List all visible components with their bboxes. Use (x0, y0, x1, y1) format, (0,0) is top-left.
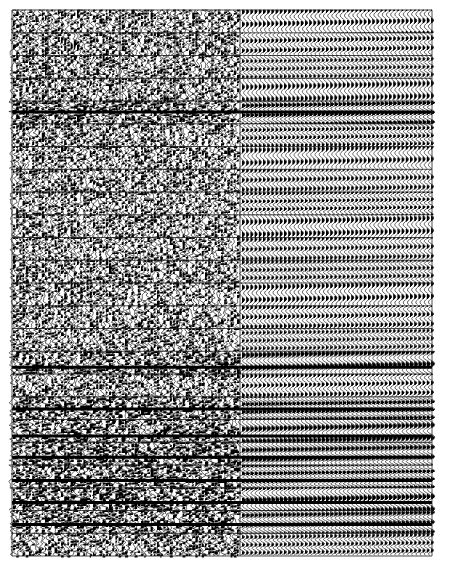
wiggle-trace-plot (0, 0, 456, 572)
trace-group (9, 10, 435, 557)
